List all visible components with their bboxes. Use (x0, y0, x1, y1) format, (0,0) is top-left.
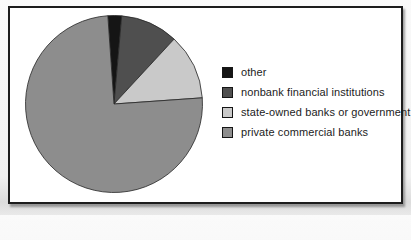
legend: other nonbank financial institutions sta… (222, 62, 410, 142)
legend-item: nonbank financial institutions (222, 82, 410, 102)
legend-item: other (222, 62, 410, 82)
legend-label-private-commercial-banks: private commercial banks (241, 126, 368, 138)
legend-label-other: other (241, 66, 267, 78)
legend-swatch-other (222, 67, 233, 78)
legend-item: state-owned banks or government (222, 102, 410, 122)
chart-frame: other nonbank financial institutions sta… (8, 6, 403, 204)
legend-label-state-owned-banks-or-government: state-owned banks or government (241, 106, 410, 118)
legend-label-nonbank-financial-institutions: nonbank financial institutions (241, 86, 385, 98)
legend-swatch-private-commercial-banks (222, 127, 233, 138)
legend-swatch-state-owned-banks-or-government (222, 107, 233, 118)
legend-swatch-nonbank-financial-institutions (222, 87, 233, 98)
pie-chart (10, 8, 230, 202)
legend-item: private commercial banks (222, 122, 410, 142)
